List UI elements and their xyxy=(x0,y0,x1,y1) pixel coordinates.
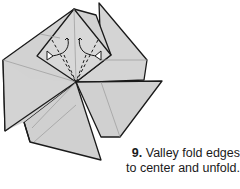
center-point xyxy=(75,81,77,83)
step-caption: 9. Valley fold edges to center and unfol… xyxy=(110,146,240,176)
caption-line-1: 9. Valley fold edges xyxy=(110,146,240,161)
caption-line-2: to center and unfold. xyxy=(110,161,240,176)
caption-text-1: Valley fold edges xyxy=(146,146,240,160)
paper-model xyxy=(3,3,162,160)
step-number: 9. xyxy=(132,146,142,160)
